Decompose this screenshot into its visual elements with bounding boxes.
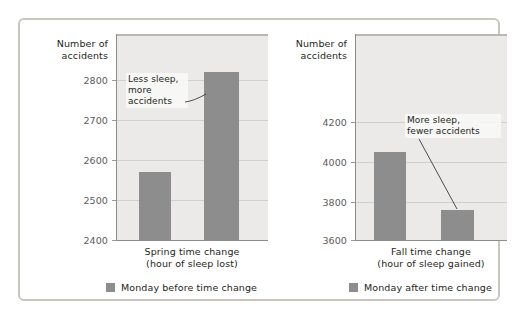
x-axis-label-spring: Spring time change (hour of sleep lost) bbox=[116, 246, 268, 270]
plot-top-rule-left bbox=[116, 34, 268, 36]
figure-frame: 2800 2700 2600 2500 2400 Number of accid… bbox=[18, 18, 500, 301]
tick-2500 bbox=[112, 200, 116, 201]
panel-fall: 4200 4000 3800 3600 Number of accidents … bbox=[261, 20, 502, 303]
ytick-label-4200: 4200 bbox=[313, 117, 347, 128]
y-axis-title-left: Number of accidents bbox=[28, 38, 108, 61]
tick-2600 bbox=[112, 160, 116, 161]
bar-fall-after bbox=[441, 210, 474, 240]
panel-spring: 2800 2700 2600 2500 2400 Number of accid… bbox=[20, 20, 261, 303]
x-axis-line-left bbox=[116, 240, 268, 241]
tick-2800 bbox=[112, 80, 116, 81]
annotation-pointer-fall bbox=[418, 139, 458, 211]
tick-3800 bbox=[351, 202, 355, 203]
ytick-label-2800: 2800 bbox=[74, 75, 108, 86]
bar-spring-before bbox=[139, 172, 171, 240]
plot-top-rule-right bbox=[355, 34, 507, 36]
ytick-label-2700: 2700 bbox=[74, 115, 108, 126]
tick-2700 bbox=[112, 120, 116, 121]
ytick-label-2600: 2600 bbox=[74, 155, 108, 166]
y-axis-title-right: Number of accidents bbox=[267, 38, 347, 61]
tick-4200 bbox=[351, 122, 355, 123]
annotation-spring: Less sleep, more accidents bbox=[126, 73, 188, 108]
legend-label-after: Monday after time change bbox=[364, 282, 492, 293]
ytick-label-3800: 3800 bbox=[313, 197, 347, 208]
legend-swatch-after bbox=[349, 283, 358, 292]
bar-fall-before bbox=[374, 152, 406, 240]
annotation-fall: More sleep, fewer accidents bbox=[405, 114, 501, 138]
ytick-label-4000: 4000 bbox=[313, 157, 347, 168]
legend-item-after: Monday after time change bbox=[349, 282, 492, 293]
ytick-label-2500: 2500 bbox=[74, 195, 108, 206]
tick-2400 bbox=[112, 240, 116, 241]
chart-figure: 2800 2700 2600 2500 2400 Number of accid… bbox=[0, 0, 517, 322]
y-axis-line-left bbox=[116, 34, 117, 241]
legend-swatch-before bbox=[106, 283, 115, 292]
x-axis-label-fall: Fall time change (hour of sleep gained) bbox=[355, 246, 507, 270]
legend-item-before: Monday before time change bbox=[106, 282, 257, 293]
legend-label-before: Monday before time change bbox=[121, 282, 257, 293]
ytick-label-3600: 3600 bbox=[313, 235, 347, 246]
gridline-2700 bbox=[117, 120, 268, 121]
ytick-label-2400: 2400 bbox=[74, 235, 108, 246]
tick-3600 bbox=[351, 240, 355, 241]
gridline-2600 bbox=[117, 160, 268, 161]
tick-4000 bbox=[351, 162, 355, 163]
x-axis-line-right bbox=[355, 240, 507, 241]
y-axis-line-right bbox=[355, 34, 356, 241]
annotation-pointer-spring bbox=[184, 92, 212, 106]
